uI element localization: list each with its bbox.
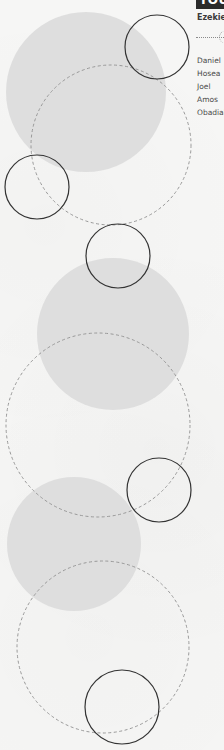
- solid-circle: [85, 670, 159, 744]
- list-item: Hosea: [197, 67, 224, 80]
- title-bar-label: YOUS: [199, 0, 224, 7]
- list-item: Joel: [197, 80, 224, 93]
- solid-circle: [127, 458, 191, 522]
- list-item: Amos: [197, 93, 224, 106]
- dotted-connector-curve: [219, 31, 224, 43]
- list-item: Obadiah: [197, 106, 224, 119]
- list-item: Daniel: [197, 54, 224, 67]
- filled-circle: [6, 12, 166, 172]
- filled-circle: [7, 477, 141, 611]
- circle-diagram: [0, 0, 224, 750]
- name-list: Daniel Hosea Joel Amos Obadiah: [197, 54, 224, 119]
- header-label: Ezekiel: [197, 13, 224, 22]
- solid-circle: [5, 155, 69, 219]
- filled-circles-layer: [6, 12, 189, 611]
- title-bar: YOUS: [196, 0, 224, 9]
